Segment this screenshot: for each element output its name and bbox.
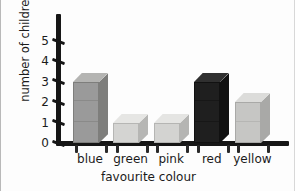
bar-blue-unit-divider-2	[74, 100, 98, 101]
bar-blue-front-face	[73, 82, 99, 143]
category-label-yellow: yellow	[225, 152, 279, 166]
y-tick-label-1: 1	[35, 117, 49, 129]
bar-blue-side-face	[99, 73, 108, 143]
bar-blue	[73, 82, 99, 143]
bar-yellow-front-face	[235, 102, 261, 143]
y-tick-label-4: 4	[35, 55, 49, 67]
bar-red-front-face	[194, 82, 220, 143]
bar-chart-figure: number of children 012345 bluegreenpinkr…	[0, 0, 295, 191]
bar-red	[194, 82, 220, 143]
bar-pink-front-face	[154, 123, 180, 143]
bar-yellow	[235, 102, 261, 143]
y-tick-label-3: 3	[35, 76, 49, 88]
bar-red-unit-divider-1	[195, 121, 219, 122]
y-axis-title: number of children	[18, 0, 32, 107]
bar-red-side-face	[220, 73, 229, 143]
bar-red-unit-divider-2	[195, 100, 219, 101]
bar-green-front-face	[113, 123, 139, 143]
bar-yellow-side-face	[261, 94, 270, 143]
bar-pink	[154, 123, 180, 143]
y-tick-label-2: 2	[35, 96, 49, 108]
y-tick-label-0: 0	[35, 137, 49, 149]
bar-yellow-unit-divider-1	[236, 121, 260, 122]
y-tick-label-5: 5	[35, 35, 49, 47]
bar-blue-unit-divider-1	[74, 121, 98, 122]
bar-green	[113, 123, 139, 143]
x-axis-title: favourite colour	[1, 170, 295, 184]
